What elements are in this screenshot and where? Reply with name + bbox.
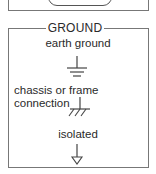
chassis-ground-icon — [66, 96, 92, 120]
chassis-label-line2: connection — [14, 97, 70, 109]
previous-section-pill — [48, 0, 112, 6]
isolated-ground-icon — [70, 143, 84, 165]
section-border-left — [8, 28, 46, 29]
section-title: GROUND — [46, 21, 104, 35]
earth-ground-label: earth ground — [0, 37, 156, 49]
section-border-right — [104, 28, 148, 29]
earth-ground-icon — [66, 55, 88, 79]
isolated-label: isolated — [0, 128, 156, 140]
chassis-label-line1: chassis or frame — [14, 84, 98, 96]
